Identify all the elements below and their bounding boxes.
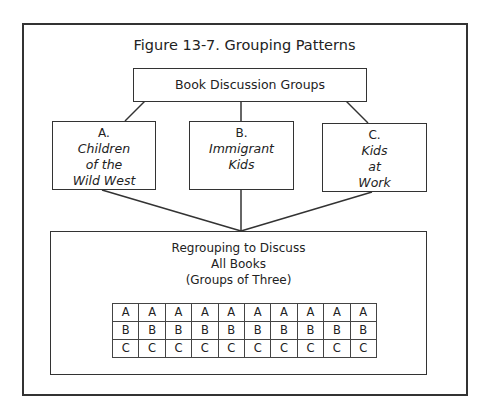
root-node-label: Book Discussion Groups	[175, 77, 325, 92]
grid-cell: B	[139, 322, 165, 340]
grid-cell: C	[218, 340, 244, 358]
root-node-box: Book Discussion Groups	[133, 68, 367, 102]
grid-cell: A	[218, 304, 244, 322]
group-b-box: B. Immigrant Kids	[189, 121, 294, 190]
connector-root-to-c	[346, 101, 368, 123]
grid-cell: A	[192, 304, 218, 322]
connector-c-to-regroup	[241, 192, 372, 231]
grid-row-a: A A A A A A A A A A	[113, 304, 377, 322]
grid-row-b: B B B B B B B B B B	[113, 322, 377, 340]
group-c-title: Kids at Work	[323, 143, 426, 191]
grid-cell: C	[165, 340, 191, 358]
grid-cell: A	[271, 304, 297, 322]
grid-cell: C	[192, 340, 218, 358]
grid-cell: A	[350, 304, 376, 322]
grid-cell: B	[165, 322, 191, 340]
connector-a-to-regroup	[102, 190, 241, 231]
grid-cell: B	[192, 322, 218, 340]
groups-of-three-grid: A A A A A A A A A A B B B B B B B B B	[112, 303, 377, 358]
grid-cell: A	[244, 304, 270, 322]
grid-cell: B	[297, 322, 323, 340]
regroup-box: Regrouping to Discuss All Books (Groups …	[50, 231, 427, 375]
grid-cell: C	[139, 340, 165, 358]
grid-cell: B	[350, 322, 376, 340]
group-c-letter: C.	[323, 127, 426, 143]
group-c-box: C. Kids at Work	[322, 123, 427, 192]
group-a-box: A. Children of the Wild West	[52, 121, 156, 190]
grid-cell: A	[165, 304, 191, 322]
regroup-heading-line-3: (Groups of Three)	[51, 272, 426, 288]
grid-cell: B	[271, 322, 297, 340]
group-b-title: Immigrant Kids	[190, 141, 293, 173]
grid-cell: C	[297, 340, 323, 358]
grid-cell: B	[244, 322, 270, 340]
grid-cell: C	[324, 340, 350, 358]
grid-cell: B	[324, 322, 350, 340]
group-a-title: Children of the Wild West	[53, 141, 155, 189]
grid-cell: A	[139, 304, 165, 322]
grid-cell: B	[218, 322, 244, 340]
grid-cell: C	[271, 340, 297, 358]
grid-cell: C	[113, 340, 139, 358]
group-a-letter: A.	[53, 125, 155, 141]
grid-cell: A	[324, 304, 350, 322]
grid-cell: B	[113, 322, 139, 340]
grid-cell: A	[297, 304, 323, 322]
regroup-heading-line-2: All Books	[51, 256, 426, 272]
grid-cell: C	[244, 340, 270, 358]
group-b-letter: B.	[190, 125, 293, 141]
grid-cell: C	[350, 340, 376, 358]
grid-cell: A	[113, 304, 139, 322]
grid-row-c: C C C C C C C C C C	[113, 340, 377, 358]
regroup-heading-line-1: Regrouping to Discuss	[51, 240, 426, 256]
connector-root-to-a	[125, 101, 145, 121]
